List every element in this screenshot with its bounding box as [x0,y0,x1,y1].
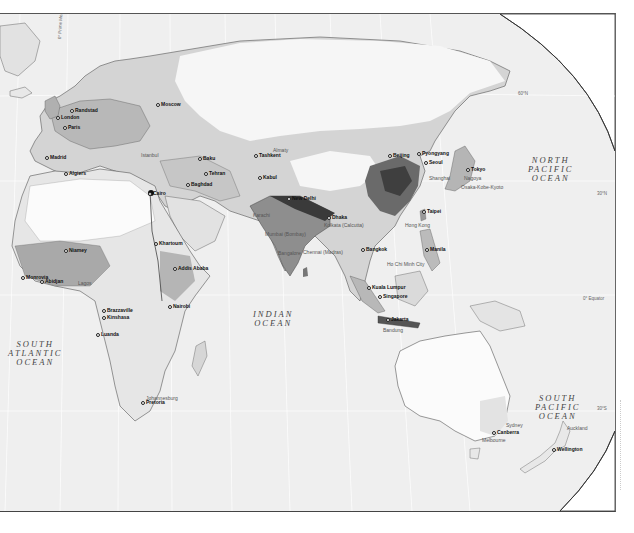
city-marker-icon[interactable] [21,276,25,280]
city-label[interactable]: Sydney [506,423,523,428]
city-marker-icon[interactable] [102,309,106,313]
city-marker-icon[interactable] [422,210,426,214]
city-label[interactable]: Lagos [78,281,92,286]
city-label[interactable]: Mumbai (Bombay) [265,232,306,237]
ocean-label-south-atlantic: SOUTH ATLANTIC OCEAN [8,340,62,367]
edge-marks [620,400,624,490]
city-marker-icon[interactable] [198,157,202,161]
city-marker-icon[interactable] [425,248,429,252]
city-marker-icon[interactable] [424,161,428,165]
ocean-line: OCEAN [253,319,293,328]
city-label[interactable]: Baku [203,156,215,161]
city-marker-icon[interactable] [70,109,74,113]
city-label[interactable]: Bandung [383,328,403,333]
city-marker-icon[interactable] [63,126,67,130]
city-label[interactable]: Tokyo [471,167,485,172]
city-marker-icon[interactable] [173,267,177,271]
city-label[interactable]: Baghdad [191,182,212,187]
city-marker-icon[interactable] [156,103,160,107]
city-label[interactable]: Nagoya [464,176,481,181]
city-label[interactable]: Paris [68,125,80,130]
city-marker-icon[interactable] [258,176,262,180]
ocean-line: OCEAN [528,174,573,183]
city-label[interactable]: Beijing [393,153,410,158]
city-label[interactable]: Jakarta [391,317,409,322]
city-label[interactable]: Pretoria [146,400,165,405]
city-marker-icon[interactable] [186,183,190,187]
city-label[interactable]: Pyongyang [422,151,449,156]
city-label[interactable]: Seoul [429,160,443,165]
city-marker-icon[interactable] [168,305,172,309]
city-label[interactable]: Kabul [263,175,277,180]
ocean-line: OCEAN [8,358,62,367]
city-label[interactable]: Bangalore [278,251,301,256]
city-marker-icon[interactable] [56,116,60,120]
city-marker-icon[interactable] [40,280,44,284]
city-label[interactable]: Brazzaville [107,308,133,313]
city-label[interactable]: Almaty [273,148,288,153]
city-label[interactable]: Auckland [567,426,588,431]
city-label[interactable]: Kinshasa [107,315,129,320]
city-label[interactable]: Manila [430,247,446,252]
city-label[interactable]: Tehran [209,171,225,176]
city-marker-icon[interactable] [287,197,291,201]
city-marker-icon[interactable] [96,333,100,337]
city-label[interactable]: London [61,115,79,120]
city-marker-icon[interactable] [204,172,208,176]
city-marker-icon[interactable] [388,154,392,158]
city-label[interactable]: Melbourne [482,438,506,443]
city-label[interactable]: Canberra [497,430,519,435]
city-label[interactable]: Algiers [69,171,86,176]
city-label[interactable]: Luanda [101,332,119,337]
ocean-label-indian: INDIAN OCEAN [253,310,293,328]
city-label[interactable]: Hong Kong [405,223,430,228]
city-label[interactable]: Nairobi [173,304,190,309]
city-marker-icon[interactable] [45,156,49,160]
city-marker-icon[interactable] [102,316,106,320]
city-label[interactable]: Niamey [69,248,87,253]
city-label[interactable]: Addis Ababa [178,266,208,271]
city-label[interactable]: Chennai (Madras) [303,250,343,255]
city-label[interactable]: Abidjan [45,279,63,284]
city-marker-icon[interactable] [64,249,68,253]
city-marker-icon[interactable] [367,286,371,290]
city-label[interactable]: Moscow [161,102,181,107]
city-marker-icon[interactable] [417,152,421,156]
city-label[interactable]: Osaka-Kobe-Kyoto [461,185,503,190]
city-label[interactable]: Ho Chi Minh City [387,262,425,267]
city-label[interactable]: Singapore [383,294,407,299]
city-label[interactable]: Randstad [75,108,98,113]
graticule-label-lat-equator: 0° Equator [583,296,604,301]
city-marker-icon[interactable] [552,448,556,452]
city-marker-icon[interactable] [378,295,382,299]
city-label[interactable]: Bangkok [366,247,387,252]
city-marker-icon[interactable] [361,248,365,252]
city-label[interactable]: Wellington [557,447,582,452]
city-marker-icon[interactable] [254,154,258,158]
ocean-label-south-pacific: SOUTH PACIFIC OCEAN [535,394,580,421]
city-marker-icon[interactable] [154,242,158,246]
city-label[interactable]: Dhaka [332,215,347,220]
city-marker-icon[interactable] [386,318,390,322]
city-label[interactable]: Khartoum [159,241,183,246]
city-label[interactable]: Cairo [153,191,166,196]
city-label[interactable]: Shanghai [429,176,450,181]
city-label[interactable]: Taipei [427,209,441,214]
city-label[interactable]: Istanbul [141,153,159,158]
city-marker-icon[interactable] [466,168,470,172]
city-label[interactable]: Tashkent [259,153,281,158]
city-label[interactable]: Kolkata (Calcutta) [324,223,364,228]
city-marker-icon[interactable] [64,172,68,176]
city-marker-icon[interactable] [141,401,145,405]
graticule-label-lat-30n: 30°N [597,191,607,196]
city-marker-icon[interactable] [327,216,331,220]
city-label[interactable]: Kuala Lumpur [372,285,406,290]
city-label[interactable]: Madrid [50,155,66,160]
graticule-label-lat-60n: 60°N [518,91,528,96]
city-marker-icon[interactable] [148,192,152,196]
ocean-label-north-pacific: NORTH PACIFIC OCEAN [528,156,573,183]
city-label[interactable]: New Delhi [292,196,316,201]
map-frame[interactable]: 30°W 30°E 60°E 90°E 120°E 150°E 180° 0° … [0,13,616,512]
city-label[interactable]: Karachi [253,213,270,218]
city-marker-icon[interactable] [492,431,496,435]
